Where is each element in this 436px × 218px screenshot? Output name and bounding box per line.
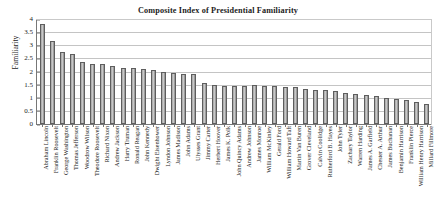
x-tick-label: Richard Nixon [102, 89, 108, 126]
y-tick-label: 0.5 [24, 107, 37, 114]
x-tick-label: Ronald Reagan [132, 88, 138, 126]
x-tick-label: William McKinley [264, 79, 270, 126]
x-tick-label: Woodrow Wilson [82, 83, 88, 126]
x-tick-label: Martin Van Buren [294, 81, 300, 126]
x-tick-label: Jimmy Carter [203, 92, 209, 126]
y-tick-label: 1.5 [24, 81, 37, 88]
x-tick-label: Lyndon Johnson [163, 85, 169, 126]
x-tick-label: Franklin Pierce [406, 88, 412, 126]
chart-title: Composite Index of Presidential Familiar… [0, 6, 436, 15]
x-tick-label: John Tyler [335, 100, 341, 126]
x-tick-label: Herbert Hoover [213, 87, 219, 126]
y-tick-label: 3.5 [24, 29, 37, 36]
y-tick-label: 4 [30, 16, 38, 23]
x-tick-label: John Quincy Adams [234, 76, 240, 126]
x-tick-label: James Buchanan [385, 85, 391, 126]
y-tick-label: 1 [30, 94, 38, 101]
x-tick-label: William Howard Taft [284, 73, 290, 126]
x-tick-label: Calvin Coolidge [315, 85, 321, 126]
x-tick-label: John Adams [183, 96, 189, 126]
x-tick-label: Theodore Roosevelt [92, 76, 98, 126]
x-tick-label: James K. Polk [223, 90, 229, 126]
y-axis-title: Familiarity [11, 18, 20, 88]
x-tick-label: Thomas Jefferson [71, 82, 77, 126]
x-tick-label: Gerald Ford [274, 96, 280, 126]
x-tick-label: Franklin Roosevelt [51, 79, 57, 126]
x-tick-label: Dwight Eisenhower [152, 77, 158, 126]
x-tick-label: Millard Fillmore [426, 85, 432, 126]
x-tick-label: George Washington [61, 77, 67, 126]
x-tick-label: William Henry Harrison [416, 66, 422, 126]
x-tick-label: John Kennedy [142, 90, 148, 126]
y-tick-label: 2.5 [24, 55, 37, 62]
x-tick-label: Rutherford B. Hayes [325, 75, 331, 126]
x-tick-label: Benjamin Harrison [396, 79, 402, 126]
x-tick-label: Ulysses Grant [193, 91, 199, 126]
y-tick-label: 2 [30, 68, 38, 75]
x-tick-label: Abraham Lincoln [41, 82, 47, 126]
x-tick-label: Grover Cleveland [304, 82, 310, 126]
x-tick-label: Warren Harding [355, 86, 361, 126]
x-axis-labels: Abraham LincolnFranklin RooseveltGeorge … [36, 126, 432, 218]
x-tick-label: James A. Garfield [365, 81, 371, 126]
x-tick-label: James Monroe [254, 90, 260, 126]
x-tick-label: James Madison [173, 88, 179, 126]
x-tick-label: Chester A. Arthur [375, 82, 381, 126]
chart-figure: Composite Index of Presidential Familiar… [0, 0, 436, 218]
y-tick-label: 3 [30, 42, 38, 49]
x-tick-label: Harry Truman [122, 91, 128, 126]
x-tick-label: Zachary Taylor [345, 88, 351, 126]
x-tick-label: Andrew Johnson [244, 84, 250, 126]
x-tick-label: Andrew Jackson [112, 85, 118, 126]
